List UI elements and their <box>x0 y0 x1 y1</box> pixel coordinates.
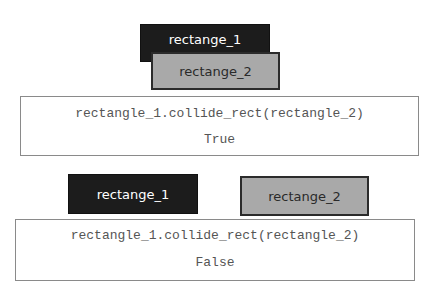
rectangle-1-separate: rectange_1 <box>68 174 198 214</box>
rectangle-2-separate: rectange_2 <box>240 176 369 216</box>
result-text: False <box>16 255 414 270</box>
rectangle-2-label: rectange_2 <box>179 64 252 79</box>
collision-result-box-false: rectangle_1.collide_rect(rectangle_2) Fa… <box>15 219 415 281</box>
collision-result-box-true: rectangle_1.collide_rect(rectangle_2) Tr… <box>20 96 419 156</box>
expression-text: rectangle_1.collide_rect(rectangle_2) <box>16 228 414 243</box>
rectangle-1-label: rectange_1 <box>169 32 242 47</box>
rectangle-1-label: rectange_1 <box>97 187 170 202</box>
rectangle-2-label: rectange_2 <box>268 189 341 204</box>
result-text: True <box>21 132 418 147</box>
rectangle-2-overlapping: rectange_2 <box>151 52 280 90</box>
expression-text: rectangle_1.collide_rect(rectangle_2) <box>21 106 418 121</box>
